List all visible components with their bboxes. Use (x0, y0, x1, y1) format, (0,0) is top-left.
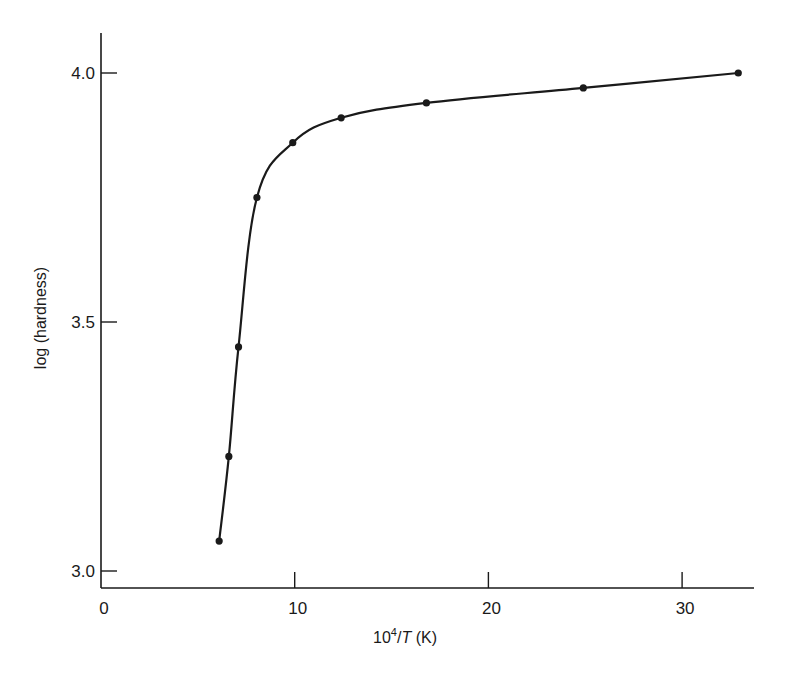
x-axis-label: 104/T (K) (373, 626, 437, 646)
data-point (423, 99, 430, 106)
y-tick-label: 3.0 (71, 562, 95, 581)
x-tick-label: 20 (482, 599, 501, 618)
axes (101, 33, 754, 588)
series-line (219, 73, 738, 541)
ticks: 3.03.54.00102030 (71, 64, 694, 618)
data-point (735, 69, 742, 76)
y-tick-label: 4.0 (71, 64, 95, 83)
y-tick-label: 3.5 (71, 313, 95, 332)
x-tick-label: 10 (288, 599, 307, 618)
data-point (338, 114, 345, 121)
data-point (580, 84, 587, 91)
x-tick-label: 30 (676, 599, 695, 618)
y-axis-label: log (hardness) (32, 267, 49, 369)
x-tick-label: 0 (99, 599, 108, 618)
data-point (235, 343, 242, 350)
data-point (216, 538, 223, 545)
data-point (225, 453, 232, 460)
data-curve (219, 73, 738, 541)
data-markers (216, 69, 742, 544)
chart: 3.03.54.00102030 104/T (K)log (hardness) (0, 0, 794, 681)
data-point (289, 139, 296, 146)
data-point (253, 194, 260, 201)
